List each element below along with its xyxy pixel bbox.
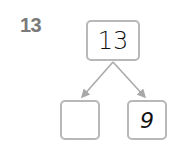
part-box-empty[interactable] — [60, 100, 100, 140]
part-box-given: 9 — [127, 100, 167, 140]
part-value-right: 9 — [140, 108, 154, 133]
right-arrow-icon — [113, 62, 144, 96]
left-arrow-icon — [83, 62, 113, 96]
